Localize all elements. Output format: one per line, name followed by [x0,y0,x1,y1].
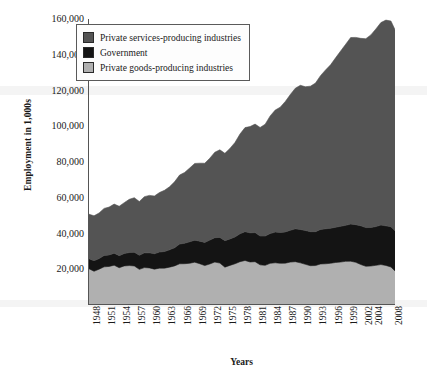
y-axis-tick-labels: 160,000140,000120,000100,00080,00060,000… [22,0,84,383]
legend-item: Private services-producing industries [83,30,241,45]
x-axis-tick-label: 1969 [198,306,208,325]
legend-item-label: Private services-producing industries [100,33,241,43]
x-axis-tick-label: 1993 [318,306,328,325]
y-axis-tick-label: 80,000 [24,157,84,167]
x-axis-tick-label: 1978 [243,306,253,325]
y-axis-tick-label: 100,000 [24,121,84,131]
x-axis-tick-label: 1954 [122,306,132,325]
x-axis-tick-label: 1990 [303,306,313,325]
x-axis-tick-label: 1984 [273,306,283,325]
legend-item-label: Government [100,48,148,58]
legend-item: Government [83,45,241,60]
y-axis-tick-label: 60,000 [24,193,84,203]
x-axis-tick-label: 2008 [394,306,404,325]
x-axis-tick-label: 1948 [92,306,102,325]
legend-item: Private goods-producing industries [83,60,241,75]
x-axis-tick-label: 1951 [107,306,117,325]
y-axis-tick-label: 20,000 [24,264,84,274]
area-series-0 [89,260,395,305]
x-axis-tick-label: 2004 [374,306,384,325]
y-axis-tick-label: 120,000 [24,86,84,96]
x-axis-tick-label: 1987 [288,306,298,325]
chart-legend: Private services-producing industriesGov… [76,24,250,81]
y-axis-tick-label: 160,000 [24,14,84,24]
x-axis-tick-label: 1972 [213,306,223,325]
x-axis-tick-label: 1960 [152,306,162,325]
x-axis-title: Years [88,357,395,367]
x-axis-tick-labels: 1948195119541957196019631966196919721975… [88,306,395,356]
chart-figure: Employment in 1,000s 160,000140,000120,0… [0,0,427,383]
y-axis-tick-label: 140,000 [24,50,84,60]
x-axis-tick-label: 1981 [258,306,268,325]
legend-swatch-icon [83,47,94,58]
legend-swatch-icon [83,62,94,73]
legend-item-label: Private goods-producing industries [100,63,233,73]
x-axis-tick-label: 1975 [228,306,238,325]
x-axis-tick-label: 1957 [137,306,147,325]
x-axis-tick-label: 2002 [364,306,374,325]
x-axis-tick-label: 1996 [334,306,344,325]
legend-swatch-icon [83,32,94,43]
x-axis-tick-label: 1966 [183,306,193,325]
x-axis-tick-label: 1999 [349,306,359,325]
y-axis-tick-label: 40,000 [24,229,84,239]
x-axis-tick-label: 1963 [167,306,177,325]
